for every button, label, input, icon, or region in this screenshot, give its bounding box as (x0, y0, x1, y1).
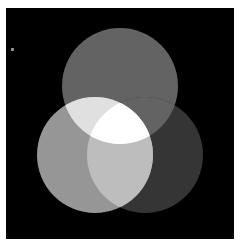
venn-plot-area (6, 8, 234, 239)
venn-diagram (6, 8, 234, 239)
figure-canvas (0, 0, 240, 247)
corner-dot-marker (11, 48, 14, 51)
